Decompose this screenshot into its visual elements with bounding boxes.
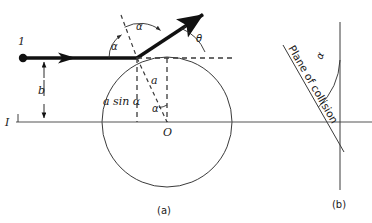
panel-b-group: Plane of collision α (b) — [283, 22, 346, 210]
surface-normal-dashed-line — [121, 15, 137, 58]
scattered-trajectory-arrow — [137, 15, 203, 59]
incident-particle-label: 1 — [18, 35, 25, 48]
panel-a-caption: (a) — [157, 205, 171, 216]
center-label: O — [163, 126, 172, 139]
panel-a-group: 1 b I α α θ α a a sin α O (a) — [4, 15, 372, 217]
angle-alpha-reflected-label: α — [136, 21, 143, 32]
angle-alpha-panel-b-label: α — [314, 50, 327, 60]
angle-alpha-center-label: α — [152, 103, 159, 114]
incident-particle-dot — [19, 54, 27, 62]
angle-theta-label: θ — [196, 33, 202, 44]
vertical-offset-label: a sin α — [103, 95, 141, 108]
axis-label: I — [4, 116, 10, 129]
plane-of-collision-line — [283, 45, 344, 152]
angle-alpha-incident-label: α — [111, 41, 118, 52]
scattering-figure: 1 b I α α θ α a a sin α O (a) Plane of c… — [0, 0, 372, 223]
radius-label: a — [151, 74, 158, 87]
impact-parameter-label: b — [38, 84, 45, 97]
panel-b-caption: (b) — [332, 199, 346, 210]
figure-canvas: 1 b I α α θ α a a sin α O (a) Plane of c… — [0, 0, 372, 223]
